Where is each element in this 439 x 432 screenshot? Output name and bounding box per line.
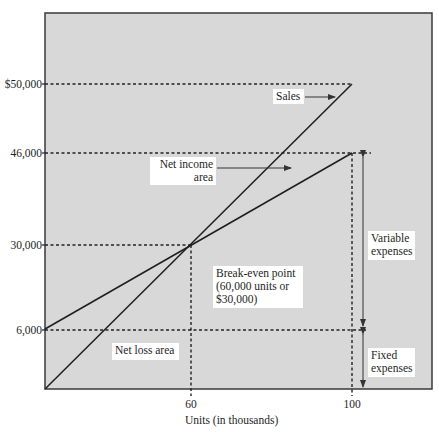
net-loss-area-label: Net loss area [112,343,179,360]
break-even-label: Break-even point (60,000 units or $30,00… [213,266,303,308]
net-income-area-label: Net income area [150,157,216,185]
plot-area [45,13,432,389]
y-tick-6000: 6,000 [0,324,42,337]
x-tick-100: 100 [337,398,367,411]
y-tick-50000: $50,000 [0,78,42,91]
sales-label: Sales [273,89,304,104]
x-tick-60: 60 [176,398,206,411]
y-tick-30000: 30,000 [0,239,42,252]
variable-expenses-label: Variable expenses [368,231,415,260]
fixed-expenses-label: Fixed expenses [368,348,415,377]
y-tick-46000: 46,000 [0,147,42,160]
x-axis-label: Units (in thousands) [185,414,278,427]
